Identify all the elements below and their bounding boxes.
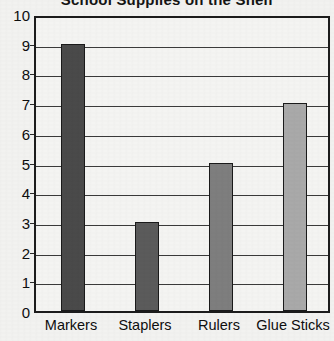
y-axis-tick-label: 2 [2, 246, 30, 261]
y-axis-tick-label: 4 [2, 186, 30, 201]
plot-area [34, 16, 330, 313]
bar-rulers [209, 163, 233, 312]
y-axis-tick-label: 3 [2, 216, 30, 231]
bar-chart: School Supplies on the Shelf 01234567891… [0, 0, 334, 341]
bar-glue-sticks [283, 103, 307, 311]
y-axis-tick-label: 8 [2, 67, 30, 82]
y-axis-tick-label: 9 [2, 38, 30, 53]
y-axis-tick-label: 5 [2, 157, 30, 172]
x-axis-tick-label: Glue Sticks [233, 318, 334, 333]
y-axis-tick-label: 7 [2, 97, 30, 112]
bar-staplers [135, 222, 159, 311]
y-axis-tick-label: 1 [2, 275, 30, 290]
bar-markers [61, 44, 85, 311]
y-axis-tick-label: 10 [2, 8, 30, 23]
y-axis-tick-label: 6 [2, 127, 30, 142]
